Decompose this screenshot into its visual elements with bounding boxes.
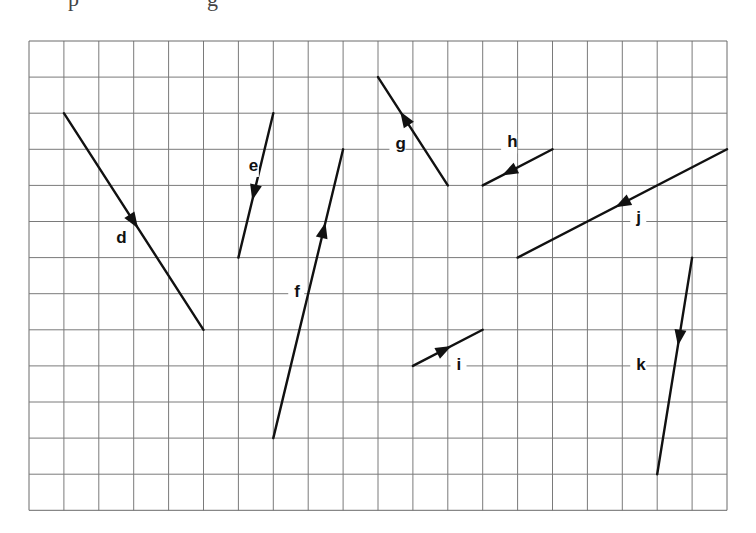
arrowhead-icon [502,163,519,176]
vector-grid-diagram: defghijk [0,0,756,533]
arrowhead-icon [124,212,138,229]
vector-label-d: d [116,228,126,247]
arrowhead-icon [675,329,687,346]
vector-label-j: j [635,208,641,227]
vector-label-g: g [395,134,405,153]
vector-label-h: h [507,132,517,151]
arrowhead-icon [400,112,414,129]
grid [29,41,727,510]
vector-label-f: f [294,282,300,301]
arrowhead-icon [434,346,451,359]
vector-label-i: i [457,355,462,374]
arrowhead-icon [615,194,632,207]
vector-label-k: k [636,355,646,374]
vector-label-e: e [249,156,258,175]
